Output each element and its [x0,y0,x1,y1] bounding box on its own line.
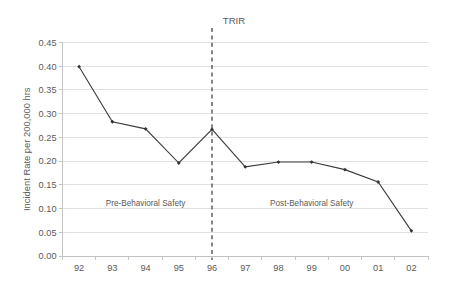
y-tick-label: 0.00 [39,251,57,261]
y-tick-label: 0.30 [39,109,57,119]
y-tick-label: 0.25 [39,133,57,143]
y-tick-label: 0.40 [39,62,57,72]
x-tick-label: 95 [174,263,184,273]
x-tick-label: 98 [273,263,283,273]
y-tick-label: 0.20 [39,156,57,166]
y-tick-label: 0.05 [39,228,57,238]
chart-title: TRIR [223,15,245,26]
chart-canvas: 0.000.050.100.150.200.250.300.350.400.45… [0,0,451,290]
gridlines [63,43,429,257]
trir-line-chart: 0.000.050.100.150.200.250.300.350.400.45… [0,0,451,290]
x-tick-label: 00 [340,263,350,273]
x-tick-label: 99 [307,263,317,273]
y-tick-label: 0.10 [39,204,57,214]
y-tick-label: 0.15 [39,180,57,190]
y-tick-label: 0.45 [39,38,57,48]
plot-annotations: Pre-Behavioral SafetyPost-Behavioral Saf… [106,199,354,208]
data-point-marker [343,168,347,172]
x-tick-label: 92 [74,263,84,273]
pre-behavioral-safety-label: Pre-Behavioral Safety [106,199,187,208]
x-tick-label: 94 [140,263,150,273]
x-axis-tick-marks [63,256,429,260]
y-axis-tick-marks [59,43,63,257]
y-axis-tick-labels: 0.000.050.100.150.200.250.300.350.400.45 [39,38,57,261]
x-axis-tick-labels: 9293949596979899000102 [74,263,417,273]
y-tick-label: 0.35 [39,85,57,95]
x-tick-label: 93 [107,263,117,273]
x-tick-label: 96 [207,263,217,273]
post-behavioral-safety-label: Post-Behavioral Safety [270,199,354,208]
x-tick-label: 97 [240,263,250,273]
y-axis-title: Incident Rate per 200,000 hrs [21,87,32,211]
x-tick-label: 01 [373,263,383,273]
x-tick-label: 02 [406,263,416,273]
